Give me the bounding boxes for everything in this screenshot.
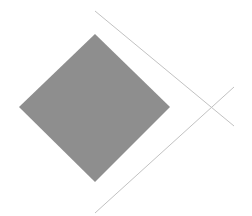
diagram-canvas <box>0 0 252 216</box>
gray-diamond-shape <box>19 34 170 182</box>
